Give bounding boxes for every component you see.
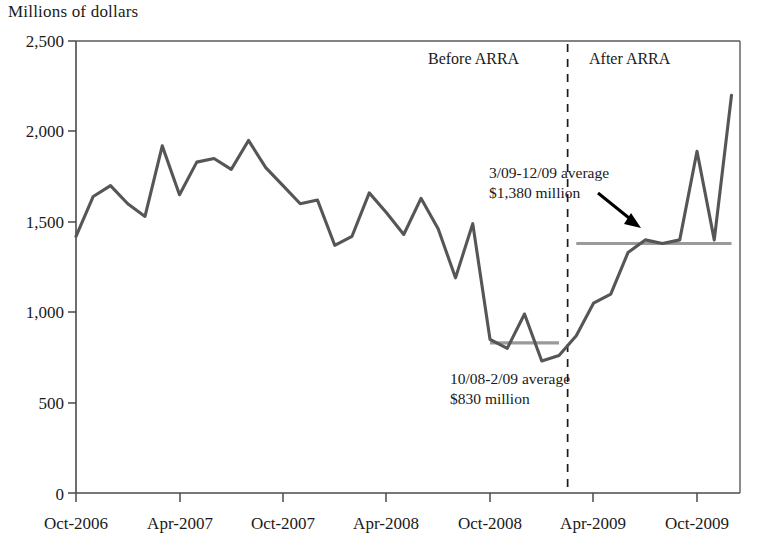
chart-container: Millions of dollars 2,500 2,000 1,500 1,… (0, 0, 758, 556)
plot-svg (0, 0, 758, 556)
annotation-arrow-icon (598, 193, 641, 228)
x-tick-marks (76, 493, 697, 502)
data-series-line (76, 95, 732, 361)
y-tick-marks (68, 41, 76, 493)
